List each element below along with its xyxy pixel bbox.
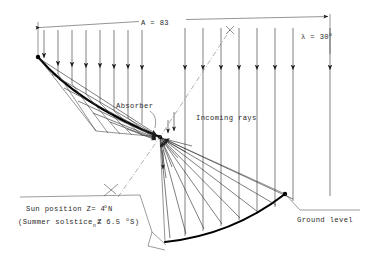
sun-position-hemisphere: N: [108, 205, 113, 213]
latitude-angle-text: λ = 30: [301, 33, 329, 41]
incoming-rays-right-continuation: [185, 70, 330, 236]
ground-level-line: [285, 194, 360, 210]
absorber-leader-line: [150, 111, 156, 128]
sun-position-caption-line1: Sun position Z= 4 o N: [26, 204, 113, 214]
aperture-dimension-label: A = 83: [141, 19, 169, 27]
lower-reflector-mirror: [165, 194, 285, 242]
incoming-rays-left-continuation: [58, 66, 142, 124]
sun-position-caption-line2: (Summer solstice Z n = 6.5 o S): [18, 217, 139, 228]
ground-level-label: Ground level: [297, 216, 353, 224]
solstice-subscript-n: n: [93, 223, 96, 228]
incoming-rays-label: Incoming rays: [196, 114, 257, 122]
upper-reflector-end-dot: [36, 55, 40, 59]
absorber-label: Absorber: [116, 102, 153, 110]
solstice-degree-symbol: o: [126, 217, 129, 222]
sun-position-text-a: Sun position Z= 4: [26, 205, 105, 213]
aperture-dimension-line: [38, 14, 330, 58]
sun-position-degree-symbol: o: [104, 204, 107, 209]
diagram-canvas: A = 83 λ = 30 o: [0, 0, 368, 268]
solstice-text-a: (Summer solstice Z: [18, 218, 102, 226]
solar-concentrator-figure: A = 83 λ = 30 o: [0, 0, 368, 268]
reflected-rays-lower: [160, 137, 293, 238]
sun-position-callout-tail: [148, 232, 165, 250]
solstice-text-b: = 6.5: [97, 218, 120, 226]
latitude-angle-label: λ = 30 o: [301, 32, 332, 42]
latitude-angle-degree-symbol: o: [329, 32, 332, 37]
sun-angle-cross-marker: [104, 184, 118, 196]
aperture-cross-marker: [226, 26, 234, 34]
solstice-text-c: S): [130, 218, 139, 226]
incoming-rays-left-group: [44, 30, 142, 70]
